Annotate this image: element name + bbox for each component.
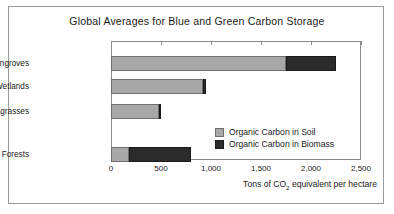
category-label: Seacoast Mangroves [0,59,29,68]
x-tick-mark [161,41,162,45]
bar-segment-soil [111,79,203,94]
x-axis-label-suffix: equivalent per hectare [290,179,377,189]
legend-item-biomass: Organic Carbon in Biomass [215,139,334,149]
chart-figure: Global Averages for Blue and Green Carbo… [8,6,384,204]
x-tick-mark [211,41,212,45]
category-label: Seagrasses [0,107,29,116]
x-tick-label: 2,500 [351,164,371,173]
legend-label-biomass: Organic Carbon in Biomass [229,139,334,149]
legend-item-soil: Organic Carbon in Soil [215,127,334,137]
x-tick-label: 1,500 [251,164,271,173]
category-label: Tropical Forests [0,150,29,159]
bar-row [111,104,161,119]
bar-row [111,56,336,71]
x-tick-label: 500 [154,164,167,173]
legend-label-soil: Organic Carbon in Soil [229,127,315,137]
x-axis-label-prefix: Tons of CO [243,179,286,189]
bar-row [111,79,206,94]
category-label: Saltwater Wetlands [0,82,29,91]
chart-legend: Organic Carbon in Soil Organic Carbon in… [215,127,334,151]
bar-segment-biomass [286,56,336,71]
chart-title: Global Averages for Blue and Green Carbo… [9,15,385,27]
bar-segment-biomass [203,79,206,94]
legend-swatch-biomass-icon [215,140,224,149]
x-tick-label: 1,000 [201,164,221,173]
bar-segment-biomass [129,147,191,162]
x-tick-mark [311,41,312,45]
x-tick-mark [111,41,112,45]
bar-segment-soil [111,104,159,119]
x-tick-label: 2,000 [301,164,321,173]
bar-segment-biomass [159,104,161,119]
x-tick-mark [361,41,362,45]
x-tick-label: 0 [109,164,113,173]
bar-row [111,147,191,162]
x-tick-mark [261,41,262,45]
x-axis-label: Tons of CO2 equivalent per hectare [9,179,377,191]
legend-swatch-soil-icon [215,128,224,137]
bar-segment-soil [111,147,129,162]
bar-segment-soil [111,56,286,71]
